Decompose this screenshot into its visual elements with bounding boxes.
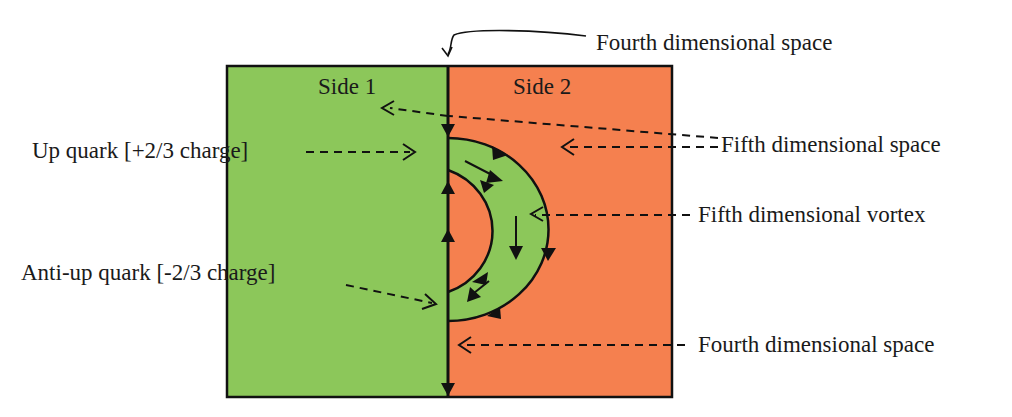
up-quark-label: Up quark [+2/3 charge] [32,138,248,164]
fifth-vortex-label: Fifth dimensional vortex [698,202,925,228]
fourth-space-bottom-label: Fourth dimensional space [698,332,934,358]
fifth-space-label: Fifth dimensional space [721,132,941,158]
side-2-region [448,66,672,397]
fourth-space-top-pointer [448,31,586,54]
anti-up-quark-label: Anti-up quark [-2/3 charge] [21,260,275,286]
fourth-space-top-label: Fourth dimensional space [596,30,832,56]
side-2-label: Side 2 [513,74,571,100]
side-1-label: Side 1 [318,74,376,100]
side-1-region [227,66,448,397]
